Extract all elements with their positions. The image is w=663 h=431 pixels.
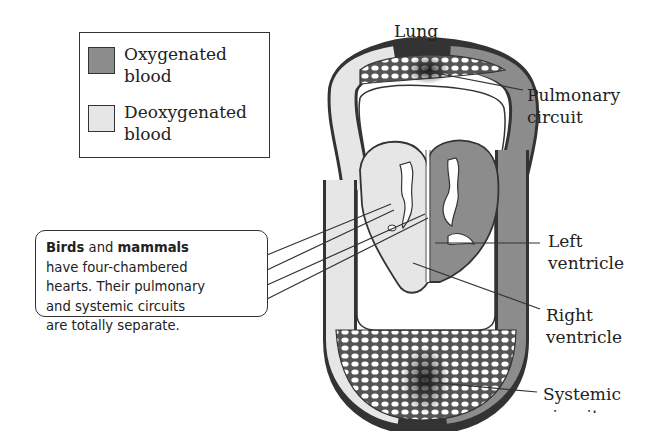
callout-bold-birds: Birds [46,240,84,255]
callout-line-3: hearts. Their pulmonary [46,277,257,297]
legend-label-line: Deoxygenated [124,101,247,123]
callout-bold-mammals: mammals [118,240,189,255]
label-line: Right [546,304,622,326]
legend-label-line: blood [124,65,227,87]
legend: Oxygenated blood Deoxygenated blood [79,32,270,158]
deoxygenated-swatch-icon [88,105,115,132]
oxygenated-swatch-icon [88,47,115,74]
legend-label-deoxygenated: Deoxygenated blood [124,101,247,145]
legend-label-line: blood [124,123,247,145]
label-line: ventricle [546,326,622,348]
systemic-circuit-label: Systemic circuit [543,383,621,431]
callout-line-5: are totally separate. [46,316,257,336]
left-ventricle-label: Left ventricle [548,230,624,274]
legend-label-line: Oxygenated [124,43,227,65]
pulmonary-circuit-label: Pulmonary circuit [527,84,620,128]
legend-item-oxygenated: Oxygenated blood [88,43,227,87]
callout-line-2: have four-chambered [46,258,257,278]
callout-box: Birds and mammals have four-chambered he… [35,230,268,317]
legend-item-deoxygenated: Deoxygenated blood [88,101,247,145]
callout-line-1: Birds and mammals [46,238,257,258]
label-line: Left [548,230,624,252]
callout-line-4: and systemic circuits [46,297,257,317]
legend-label-oxygenated: Oxygenated blood [124,43,227,87]
label-line: Pulmonary [527,84,620,106]
label-line: ventricle [548,252,624,274]
lung-label: Lung [394,20,438,42]
right-ventricle-label: Right ventricle [546,304,622,348]
label-line: Systemic [543,383,621,405]
callout-text: and [84,240,117,255]
label-line: circuit [543,405,621,413]
label-line: circuit [527,106,620,128]
